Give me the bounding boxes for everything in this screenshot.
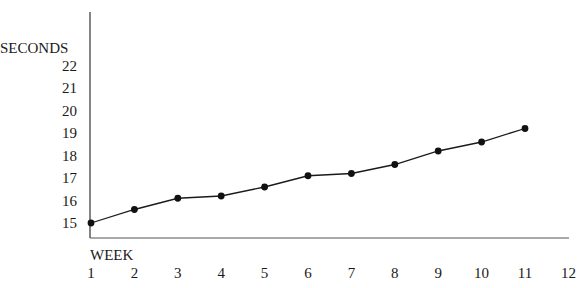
x-axis-title: WEEK [90,247,133,263]
y-tick-label: 20 [37,103,77,119]
y-tick-label: 18 [37,148,77,164]
data-point [174,195,181,202]
x-tick-label: 1 [76,265,106,281]
data-point [435,148,442,155]
data-point [218,193,225,200]
data-point [522,125,529,132]
x-tick-label: 5 [250,265,280,281]
y-tick-label: 15 [37,215,77,231]
data-point [261,184,268,191]
y-tick-label: 22 [37,58,77,74]
y-axis-title: SECONDS [0,40,68,56]
x-tick-label: 2 [119,265,149,281]
data-point [348,170,355,177]
chart-plot-area [0,0,588,288]
x-tick-label: 7 [336,265,366,281]
data-point [88,220,95,227]
x-tick-label: 10 [467,265,497,281]
y-tick-label: 16 [37,193,77,209]
data-point [391,161,398,168]
line-chart: SECONDS 2221201918171615 WEEK 1234567891… [0,0,588,288]
x-tick-label: 9 [423,265,453,281]
data-markers [88,125,529,226]
x-tick-label: 6 [293,265,323,281]
x-tick-label: 4 [206,265,236,281]
y-tick-label: 21 [37,80,77,96]
x-tick-label: 8 [380,265,410,281]
y-tick-label: 17 [37,170,77,186]
x-tick-label: 3 [163,265,193,281]
x-tick-label: 11 [510,265,540,281]
data-point [131,206,138,213]
y-tick-label: 19 [37,125,77,141]
data-point [478,139,485,146]
data-point [305,172,312,179]
x-tick-label: 12 [553,265,583,281]
